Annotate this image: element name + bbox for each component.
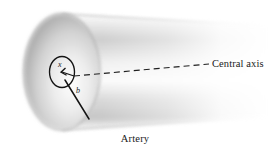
radius-label: b <box>76 86 80 95</box>
artery-figure: x b Central axis Artery <box>0 0 270 156</box>
central-axis-label: Central axis <box>212 58 264 69</box>
radial-distance-label: x <box>58 60 62 69</box>
artery-caption: Artery <box>0 133 270 144</box>
